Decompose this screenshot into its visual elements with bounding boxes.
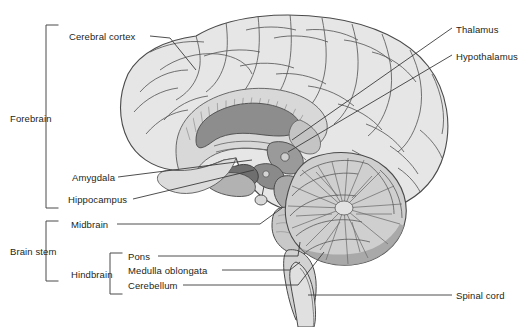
label-midbrain: Midbrain [71,219,108,230]
label-medulla-oblongata: Medulla oblongata [128,265,207,276]
label-cerebral-cortex: Cerebral cortex [69,31,135,42]
thalamus-nucleus [281,153,289,161]
hypothalamic-nucleus [263,171,269,177]
label-hindbrain: Hindbrain [71,269,113,280]
label-cerebellum: Cerebellum [128,280,178,291]
label-hippocampus: Hippocampus [68,194,127,205]
pituitary-gland [255,195,267,205]
label-spinal-cord: Spinal cord [456,290,505,301]
label-thalamus: Thalamus [456,24,499,35]
label-hypothalamus: Hypothalamus [456,51,518,62]
cerebellar-nodule [335,201,353,215]
label-amygdala: Amygdala [72,172,115,183]
label-brain-stem: Brain stem [10,246,56,257]
cerebellum [285,153,406,266]
brain-anatomy-figure: Cerebral cortex Forebrain Amygdala Hippo… [0,0,530,327]
label-forebrain: Forebrain [10,113,52,124]
bracket-group [46,25,122,294]
label-pons: Pons [128,251,150,262]
midbrain-leader [117,208,282,224]
